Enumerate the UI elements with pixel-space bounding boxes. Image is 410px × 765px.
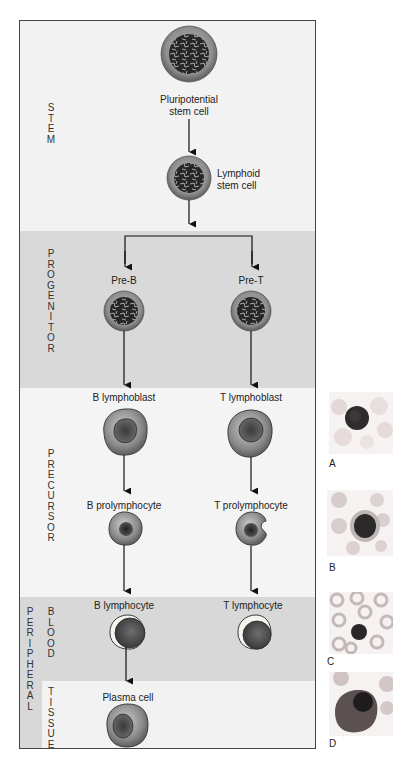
t-lymphoblast-icon <box>228 410 272 457</box>
b-prolymphocyte-icon <box>109 512 142 545</box>
photo-label-b: B <box>329 562 336 573</box>
lineage-diagram-frame: STEM PROGENITOR PRECURSOR PERIPHERAL BLO… <box>19 20 316 749</box>
label-plasma-cell: Plasma cell <box>88 692 168 704</box>
plasma-cell-icon <box>107 704 148 747</box>
micrograph-lymphocyte-image <box>329 592 393 654</box>
t-prolymphocyte-icon <box>236 512 266 545</box>
photo-label-c: C <box>327 656 334 667</box>
label-b-prolymphocyte: B prolymphocyte <box>79 500 169 512</box>
label-b-lymphoblast: B lymphoblast <box>84 392 164 404</box>
photo-label-a: A <box>329 458 336 469</box>
b-lymphoblast-icon <box>104 409 147 455</box>
pluripotential-stem-cell-icon <box>161 26 217 82</box>
lymphoid-stem-cell-icon <box>167 156 211 200</box>
label-t-lymphocyte: T lymphocyte <box>213 600 293 612</box>
photo-panel-d <box>329 672 393 736</box>
label-t-lymphoblast: T lymphoblast <box>211 392 291 404</box>
label-pre-b: Pre-B <box>104 275 144 287</box>
b-lymphocyte-icon <box>110 615 145 649</box>
label-pre-t: Pre-T <box>231 275 271 287</box>
label-lymphoid-stem-cell: Lymphoid stem cell <box>217 168 260 192</box>
label-b-lymphocyte: B lymphocyte <box>84 600 164 612</box>
label-t-prolymphocyte: T prolymphocyte <box>206 500 296 512</box>
photo-panel-b <box>327 490 393 556</box>
lineage-arrows-and-cells <box>20 21 316 749</box>
label-pluripotential-stem-cell: Pluripotential stem cell <box>149 94 229 118</box>
micrograph-plasma-cell-image <box>329 672 393 736</box>
pre-b-cell-icon <box>104 291 144 331</box>
label-line: Lymphoid <box>217 168 260 179</box>
label-line: stem cell <box>169 106 208 117</box>
photo-panel-c <box>329 592 393 654</box>
pre-t-cell-icon <box>231 291 271 331</box>
micrograph-prolymphocyte-image <box>327 490 393 556</box>
photo-panel-a <box>329 392 393 454</box>
t-lymphocyte-icon <box>238 615 271 649</box>
micrograph-lymphoblast-image <box>329 392 393 454</box>
photo-label-d: D <box>329 738 336 749</box>
label-line: stem cell <box>217 180 256 191</box>
label-line: Pluripotential <box>160 94 218 105</box>
